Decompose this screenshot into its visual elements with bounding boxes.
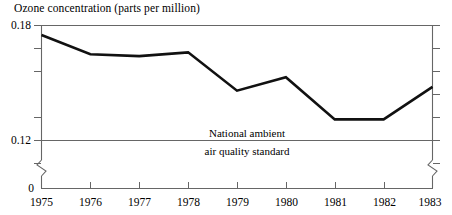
x-axis-label-1981: 1981 [324,196,347,208]
x-axis-label-1978: 1978 [177,196,200,208]
annotation-line-1: National ambient [209,127,285,139]
y-axis-break-zigzag [37,160,46,176]
x-axis-label-1975: 1975 [30,196,53,208]
chart-plot-area: 0.18 0.12 0 National ambient air quality… [0,0,452,215]
x-axis-label-1977: 1977 [128,196,151,208]
right-axis-break-zigzag [428,160,437,176]
y-axis-label-standard: 0.12 [11,134,31,146]
annotation-line-2: air quality standard [205,145,290,157]
y-axis-label-origin: 0 [28,182,34,194]
x-axis-label-1983: 1983 [419,196,442,208]
ozone-concentration-chart: Ozone concentration (parts per million) [0,0,452,215]
x-axis-label-1982: 1982 [373,196,396,208]
x-axis-label-1980: 1980 [275,196,298,208]
ozone-data-line [42,35,433,119]
y-axis-label-top: 0.18 [11,19,31,31]
x-axis-label-1976: 1976 [79,196,102,208]
x-axis-label-1979: 1979 [226,196,249,208]
